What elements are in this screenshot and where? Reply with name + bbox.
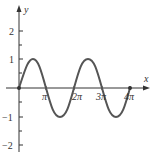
- y-axis-label: y: [23, 4, 29, 15]
- y-tick-label: −2: [2, 140, 13, 151]
- y-tick-label: 1: [9, 54, 14, 65]
- y-tick-label: 2: [9, 26, 14, 37]
- y-axis-arrow-icon: [17, 5, 22, 12]
- sine-graph: y x 2 1 −1 −2 π 2π 3π 4π: [0, 0, 151, 154]
- y-tick-label: −1: [2, 112, 13, 123]
- x-tick-label: 2π: [72, 91, 83, 102]
- x-axis-label: x: [143, 73, 149, 84]
- end-point: [128, 86, 132, 90]
- x-axis-arrow-icon: [143, 86, 150, 91]
- x-tick-label: 4π: [124, 91, 135, 102]
- x-tick-label: 3π: [95, 91, 107, 102]
- start-point: [17, 86, 21, 90]
